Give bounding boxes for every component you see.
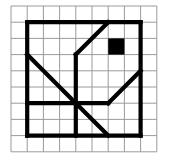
grid-line-drawing bbox=[0, 0, 177, 159]
filled-cells bbox=[108, 38, 124, 54]
filled-cell bbox=[108, 38, 124, 54]
shape-segment-left-diagonal bbox=[27, 55, 76, 104]
figure-root bbox=[0, 0, 177, 159]
